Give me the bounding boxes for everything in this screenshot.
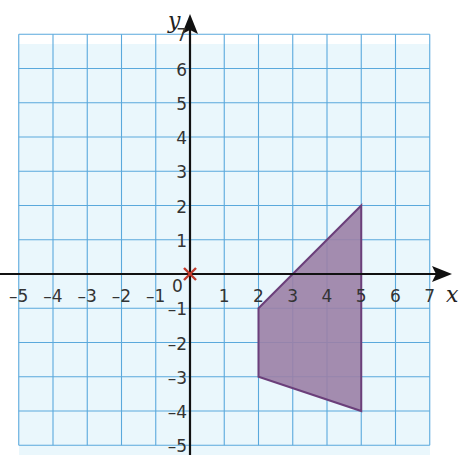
y-axis-label: y: [167, 8, 181, 33]
x-tick-label: 1: [219, 286, 230, 306]
y-tick-label: –1: [168, 299, 187, 319]
x-tick-label: –1: [146, 286, 165, 306]
y-tick-label: –3: [168, 368, 187, 388]
x-tick-label: 2: [253, 286, 264, 306]
x-tick-label: –3: [78, 286, 97, 306]
x-tick-label: 6: [390, 286, 401, 306]
coordinate-grid-chart: –5–4–3–2–11234567 7654321–1–2–3–4–5 0 x …: [0, 0, 476, 466]
y-tick-label: 3: [176, 162, 187, 182]
x-tick-label: 4: [322, 286, 333, 306]
y-tick-label: 4: [176, 128, 187, 148]
y-tick-label: –5: [168, 436, 187, 456]
x-tick-label: 7: [424, 286, 435, 306]
x-axis-label: x: [446, 282, 459, 307]
x-tick-label: 5: [356, 286, 367, 306]
y-tick-label: –2: [168, 334, 187, 354]
y-tick-label: 2: [176, 197, 187, 217]
x-tick-label: –2: [112, 286, 131, 306]
y-tick-label: –4: [168, 402, 187, 422]
x-tick-label: –5: [9, 286, 28, 306]
x-tick-label: 3: [287, 286, 298, 306]
y-tick-label: 6: [176, 60, 187, 80]
y-tick-label: 1: [176, 231, 187, 251]
origin-label: 0: [172, 276, 183, 296]
x-tick-label: –4: [43, 286, 62, 306]
y-tick-label: 5: [176, 94, 187, 114]
